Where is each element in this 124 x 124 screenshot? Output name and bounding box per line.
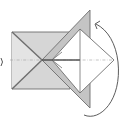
origami-diagram xyxy=(0,0,124,124)
edge-mark xyxy=(1,58,3,66)
